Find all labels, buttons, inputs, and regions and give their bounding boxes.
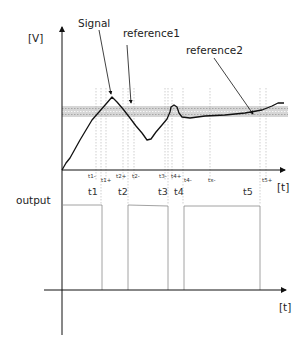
- reference1-arrow: [127, 45, 131, 103]
- marker-t1-plus: t1+: [101, 178, 111, 184]
- reference2-arrow: [214, 58, 253, 114]
- upper-x-axis-label: [t]: [277, 182, 289, 193]
- signal-annotation: Signal: [78, 18, 110, 29]
- marker-t2-plus: t2+: [116, 174, 126, 180]
- diagram-canvas: [0, 0, 308, 338]
- marker-t2-minus: t2-: [132, 174, 140, 180]
- marker-t2: t2: [118, 187, 128, 197]
- marker-t4-minus: t4-: [184, 178, 192, 184]
- output-axis-label: output: [16, 195, 51, 206]
- marker-t1-minus: t1-: [88, 174, 96, 180]
- marker-t1: t1: [88, 187, 98, 197]
- marker-t3-minus: t3-: [159, 174, 167, 180]
- marker-tx-minus: tx-: [208, 178, 215, 184]
- signal-arrow: [99, 30, 111, 94]
- reference1-annotation: reference1: [123, 28, 180, 39]
- marker-t4: t4: [174, 187, 184, 197]
- marker-t5-plus: t5+: [262, 178, 272, 184]
- lower-x-axis-label: [t]: [279, 302, 291, 313]
- marker-t4-plus: t4+: [171, 174, 181, 180]
- marker-t5: t5: [243, 187, 253, 197]
- output-pulses: [62, 205, 260, 290]
- y-axis-label-volts: [V]: [28, 33, 43, 44]
- reference2-annotation: reference2: [186, 45, 243, 56]
- marker-t3: t3: [158, 187, 168, 197]
